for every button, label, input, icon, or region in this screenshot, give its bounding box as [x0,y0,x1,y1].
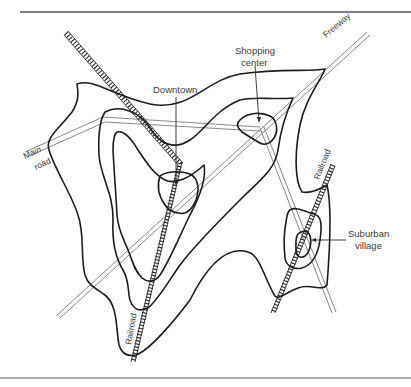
label-suburban-village-2: village [355,240,382,251]
urban-contour-map: Shopping center Freeway Downtown Main ro… [0,0,411,387]
label-main-road-1: Main [22,144,43,161]
label-railroad-east: Railroad [312,147,333,180]
label-freeway: Freeway [321,10,353,39]
contour-third [113,132,205,281]
railroad-west [64,31,182,362]
label-shopping-center-2: center [241,57,267,68]
main-road [25,117,260,157]
suburban-arrowhead [311,238,316,242]
label-suburban-village-1: Suburban [348,228,389,239]
label-main-road-2: road [33,155,53,171]
label-shopping-center-1: Shopping [235,45,275,56]
shopping-arrowhead [257,117,261,123]
contour-shopping-peak [238,113,277,144]
label-downtown: Downtown [153,84,197,95]
